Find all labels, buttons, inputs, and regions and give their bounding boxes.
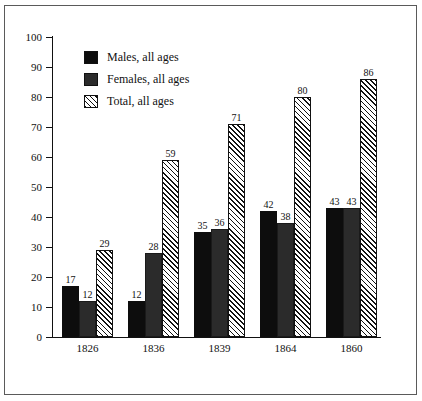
- y-axis-tick-label: 40: [8, 212, 42, 223]
- legend-item-males[interactable]: Males, all ages: [84, 46, 189, 68]
- y-axis-tick-label: 90: [8, 62, 42, 73]
- bar-females-1864[interactable]: 38: [277, 223, 294, 337]
- bar-value-label: 80: [298, 86, 308, 96]
- y-axis-tick-label: 20: [8, 272, 42, 283]
- y-axis-tick-label: 0: [8, 332, 42, 343]
- bar-total-1860[interactable]: 86: [360, 79, 377, 337]
- bar-females-1860[interactable]: 43: [343, 208, 360, 337]
- y-axis-tick: [46, 337, 52, 338]
- bar-value-label: 38: [281, 212, 291, 222]
- bar-value-label: 12: [132, 290, 142, 300]
- legend-swatch-icon: [84, 73, 98, 86]
- x-axis-label-1826: 1826: [58, 343, 118, 354]
- bar-females-1839[interactable]: 36: [211, 229, 228, 337]
- bar-value-label: 17: [66, 275, 76, 285]
- bar-males-1836[interactable]: 12: [128, 301, 145, 337]
- legend-item-females[interactable]: Females, all ages: [84, 68, 189, 90]
- bar-total-1864[interactable]: 80: [294, 97, 311, 337]
- chart-legend: Males, all agesFemales, all agesTotal, a…: [84, 46, 189, 112]
- bar-males-1860[interactable]: 43: [326, 208, 343, 337]
- bar-males-1826[interactable]: 17: [62, 286, 79, 337]
- bar-males-1864[interactable]: 42: [260, 211, 277, 337]
- bar-total-1839[interactable]: 71: [228, 124, 245, 337]
- legend-label: Females, all ages: [107, 73, 189, 85]
- bar-value-label: 43: [347, 197, 357, 207]
- bar-total-1826[interactable]: 29: [96, 250, 113, 337]
- bar-group: 434386: [326, 37, 377, 337]
- legend-label: Males, all ages: [107, 51, 179, 63]
- bar-group: 423880: [260, 37, 311, 337]
- bar-value-label: 71: [232, 113, 242, 123]
- legend-item-total[interactable]: Total, all ages: [84, 90, 189, 112]
- bar-males-1839[interactable]: 35: [194, 232, 211, 337]
- y-axis-tick-label: 10: [8, 302, 42, 313]
- bar-group: 353671: [194, 37, 245, 337]
- bar-value-label: 86: [364, 68, 374, 78]
- x-axis-line: [52, 337, 381, 338]
- bar-value-label: 28: [149, 242, 159, 252]
- bar-total-1836[interactable]: 59: [162, 160, 179, 337]
- legend-swatch-icon: [84, 95, 98, 108]
- bar-value-label: 59: [166, 149, 176, 159]
- y-axis-tick-label: 50: [8, 182, 42, 193]
- y-axis-tick-label: 70: [8, 122, 42, 133]
- x-axis-label-1860: 1860: [322, 343, 382, 354]
- y-axis-tick-label: 80: [8, 92, 42, 103]
- y-axis-tick-label: 60: [8, 152, 42, 163]
- y-axis-tick-label: 100: [8, 32, 42, 43]
- bar-value-label: 36: [215, 218, 225, 228]
- x-axis-label-1839: 1839: [190, 343, 250, 354]
- legend-label: Total, all ages: [107, 95, 174, 107]
- bar-value-label: 43: [330, 197, 340, 207]
- bar-value-label: 35: [198, 221, 208, 231]
- legend-swatch-icon: [84, 51, 98, 64]
- bar-females-1836[interactable]: 28: [145, 253, 162, 337]
- bar-females-1826[interactable]: 12: [79, 301, 96, 337]
- chart-figure: 0102030405060708090100 17122912285935367…: [0, 0, 422, 401]
- bar-value-label: 12: [83, 290, 93, 300]
- x-axis-label-1864: 1864: [256, 343, 316, 354]
- bar-value-label: 42: [264, 200, 274, 210]
- x-axis-label-1836: 1836: [124, 343, 184, 354]
- y-axis-tick-label: 30: [8, 242, 42, 253]
- bar-value-label: 29: [100, 239, 110, 249]
